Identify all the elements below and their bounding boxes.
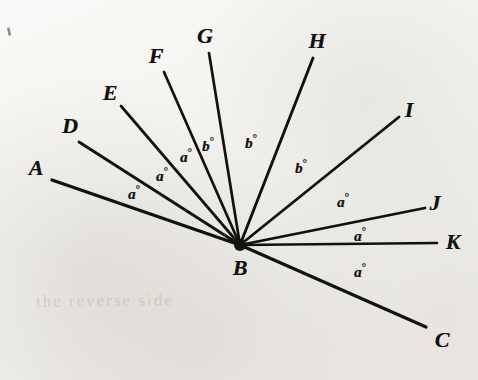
point-label-c: C bbox=[435, 327, 450, 353]
vertex-point-b bbox=[234, 239, 246, 251]
ray-b-d bbox=[79, 142, 240, 245]
point-label-j: J bbox=[430, 190, 441, 216]
point-label-b: B bbox=[233, 255, 248, 281]
point-label-e: E bbox=[103, 80, 118, 106]
ray-b-j bbox=[240, 208, 425, 245]
point-label-k: K bbox=[446, 229, 461, 255]
ray-b-c bbox=[240, 245, 426, 327]
point-label-g: G bbox=[197, 23, 213, 49]
angle-H-I: b° bbox=[295, 157, 307, 177]
ray-diagram-canvas bbox=[0, 0, 478, 380]
angle-A-D: a° bbox=[128, 183, 140, 203]
angle-G-H: b° bbox=[245, 132, 257, 152]
geometry-figure: the reverse side ADEFGHIJKCBa°a°a°b°b°b°… bbox=[0, 0, 478, 380]
angle-J-K: a° bbox=[354, 225, 366, 245]
point-label-i: I bbox=[405, 97, 414, 123]
point-label-a: A bbox=[29, 155, 44, 181]
angle-F-G: b° bbox=[202, 135, 214, 155]
corner-tick bbox=[7, 27, 11, 35]
angle-K-C: a° bbox=[354, 261, 366, 281]
angle-D-E: a° bbox=[156, 165, 168, 185]
angle-I-J: a° bbox=[337, 191, 349, 211]
point-label-d: D bbox=[62, 113, 78, 139]
ray-b-k bbox=[240, 243, 437, 245]
angle-E-F: a° bbox=[180, 146, 192, 166]
stray-marks-group bbox=[7, 27, 11, 35]
point-label-f: F bbox=[149, 43, 164, 69]
point-label-h: H bbox=[308, 28, 325, 54]
